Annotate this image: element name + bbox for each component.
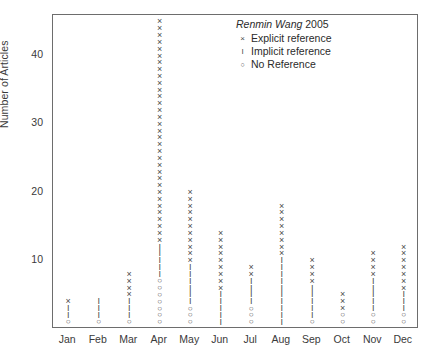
legend-symbol-implicit-icon: I: [236, 47, 249, 56]
chart-page: Number of Articles 10203040 JanFebMarApr…: [0, 0, 428, 346]
marker-no-reference: ○: [183, 318, 197, 326]
marker-no-reference: ○: [366, 318, 380, 326]
y-tick-label: 20: [31, 185, 43, 197]
chart-legend: Renmin Wang 2005 ×Explicit referenceIImp…: [236, 18, 386, 71]
marker-no-reference: ○: [183, 311, 197, 319]
marker-no-reference: ○: [153, 298, 167, 306]
y-tick-label: 40: [31, 48, 43, 60]
marker-explicit: ×: [61, 297, 75, 306]
legend-label: Explicit reference: [251, 32, 332, 44]
legend-symbol-no-reference-icon: ○: [236, 61, 249, 68]
x-tick-label: Dec: [381, 333, 425, 345]
legend-entries: ×Explicit referenceIImplicit reference○N…: [236, 32, 386, 70]
marker-explicit: ×: [183, 188, 197, 197]
marker-explicit: ×: [153, 17, 167, 26]
marker-explicit: ×: [122, 270, 136, 279]
marker-no-reference: ○: [336, 318, 350, 326]
marker-no-reference: ○: [153, 311, 167, 319]
marker-explicit: ×: [275, 202, 289, 211]
legend-label: Implicit reference: [251, 45, 331, 57]
legend-title-italic: Renmin Wang: [236, 18, 302, 30]
marker-explicit: ×: [214, 229, 228, 238]
marker-explicit: ×: [366, 249, 380, 258]
marker-no-reference: ○: [153, 318, 167, 326]
marker-no-reference: ○: [244, 318, 258, 326]
marker-no-reference: ○: [153, 291, 167, 299]
marker-implicit: I: [92, 297, 106, 306]
legend-item: IImplicit reference: [236, 45, 386, 57]
y-axis-title: Number of Articles: [0, 0, 10, 128]
marker-explicit: ×: [397, 243, 411, 252]
legend-symbol-explicit-icon: ×: [236, 34, 249, 43]
marker-no-reference: ○: [397, 318, 411, 326]
legend-item: ×Explicit reference: [236, 32, 386, 44]
marker-explicit: ×: [244, 263, 258, 272]
y-tick-label: 10: [31, 253, 43, 265]
marker-no-reference: ○: [153, 284, 167, 292]
marker-no-reference: ○: [153, 305, 167, 313]
marker-no-reference: ○: [244, 311, 258, 319]
legend-title: Renmin Wang 2005: [236, 18, 386, 30]
marker-explicit: ×: [305, 256, 319, 265]
legend-label: No Reference: [251, 58, 316, 70]
y-tick-label: 30: [31, 116, 43, 128]
legend-title-year: 2005: [305, 18, 328, 30]
marker-explicit: ×: [336, 290, 350, 299]
legend-item: ○No Reference: [236, 58, 386, 70]
